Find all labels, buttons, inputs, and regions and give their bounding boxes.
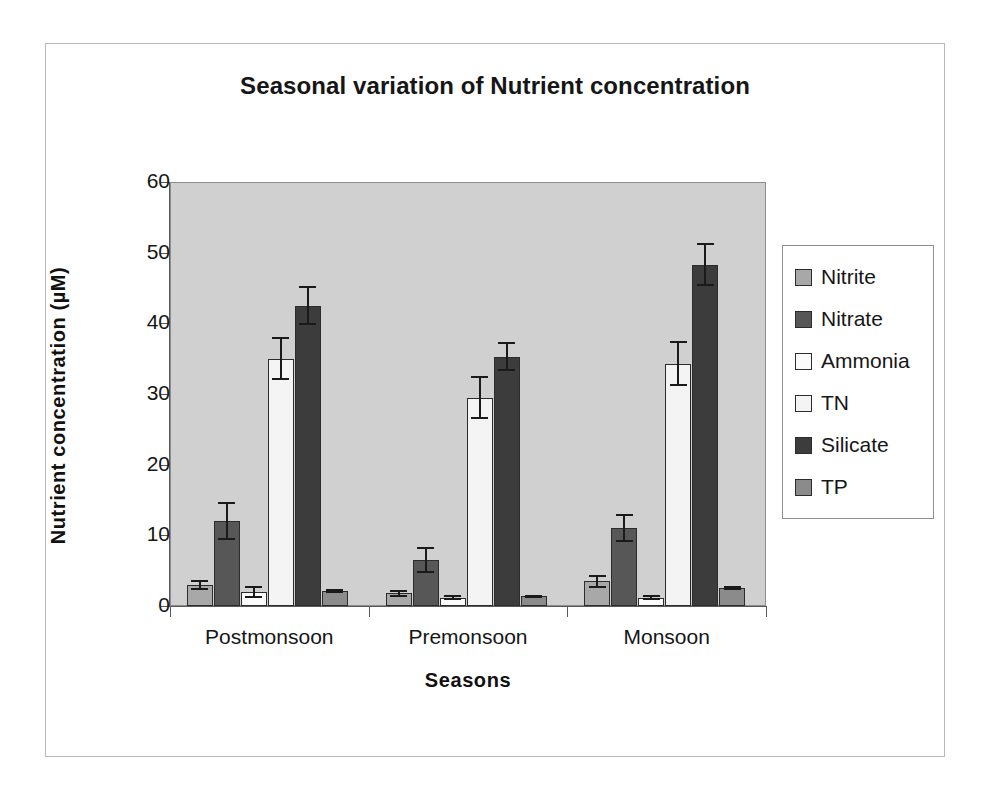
chart-title: Seasonal variation of Nutrient concentra…: [45, 72, 945, 100]
legend-item-tp[interactable]: TP: [783, 466, 933, 508]
bar-monsoon-tp: [719, 588, 745, 606]
bar-postmonsoon-nitrite: [187, 585, 213, 606]
legend-label-tn: TN: [821, 391, 849, 415]
legend-swatch-tp: [795, 479, 812, 496]
bar-monsoon-nitrite: [584, 581, 610, 606]
x-group-label-monsoon: Monsoon: [567, 625, 766, 649]
x-axis-title: Seasons: [170, 669, 766, 692]
bar-monsoon-tn: [665, 364, 691, 606]
y-tick-label: 0: [118, 593, 170, 617]
legend-item-nitrite[interactable]: Nitrite: [783, 256, 933, 298]
bar-postmonsoon-tn: [268, 359, 294, 606]
y-axis-title: Nutrient concentration (µM): [47, 226, 70, 586]
bar-premonsoon-nitrate: [413, 560, 439, 606]
y-tick-label: 20: [118, 452, 170, 476]
bar-premonsoon-ammonia: [440, 598, 466, 606]
bar-premonsoon-nitrite: [386, 593, 412, 606]
bar-premonsoon-silicate: [494, 357, 520, 606]
legend-label-ammonia: Ammonia: [821, 349, 910, 373]
bar-postmonsoon-ammonia: [241, 592, 267, 606]
legend-swatch-silicate: [795, 437, 812, 454]
bar-postmonsoon-nitrate: [214, 521, 240, 606]
x-tick-mark: [170, 607, 171, 617]
legend-swatch-nitrite: [795, 269, 812, 286]
x-tick-mark: [766, 607, 767, 617]
legend-item-silicate[interactable]: Silicate: [783, 424, 933, 466]
legend-label-silicate: Silicate: [821, 433, 889, 457]
x-group-label-premonsoon: Premonsoon: [369, 625, 568, 649]
y-tick-label: 10: [118, 522, 170, 546]
bar-monsoon-silicate: [692, 265, 718, 606]
legend-item-tn[interactable]: TN: [783, 382, 933, 424]
bar-postmonsoon-silicate: [295, 306, 321, 606]
x-tick-mark: [567, 607, 568, 617]
bar-premonsoon-tn: [467, 398, 493, 606]
chart-legend: NitriteNitrateAmmoniaTNSilicateTP: [782, 245, 934, 519]
legend-label-nitrate: Nitrate: [821, 307, 883, 331]
y-tick-label: 60: [118, 169, 170, 193]
bar-postmonsoon-tp: [322, 591, 348, 606]
legend-item-nitrate[interactable]: Nitrate: [783, 298, 933, 340]
legend-swatch-ammonia: [795, 353, 812, 370]
y-tick-label: 30: [118, 381, 170, 405]
x-tick-mark: [369, 607, 370, 617]
legend-item-ammonia[interactable]: Ammonia: [783, 340, 933, 382]
bar-premonsoon-tp: [521, 596, 547, 606]
legend-swatch-nitrate: [795, 311, 812, 328]
x-group-label-postmonsoon: Postmonsoon: [170, 625, 369, 649]
legend-swatch-tn: [795, 395, 812, 412]
y-tick-label: 50: [118, 240, 170, 264]
legend-label-tp: TP: [821, 475, 848, 499]
bar-monsoon-nitrate: [611, 528, 637, 606]
x-axis-line: [169, 606, 767, 607]
legend-label-nitrite: Nitrite: [821, 265, 876, 289]
bar-monsoon-ammonia: [638, 598, 664, 606]
y-tick-label: 40: [118, 310, 170, 334]
